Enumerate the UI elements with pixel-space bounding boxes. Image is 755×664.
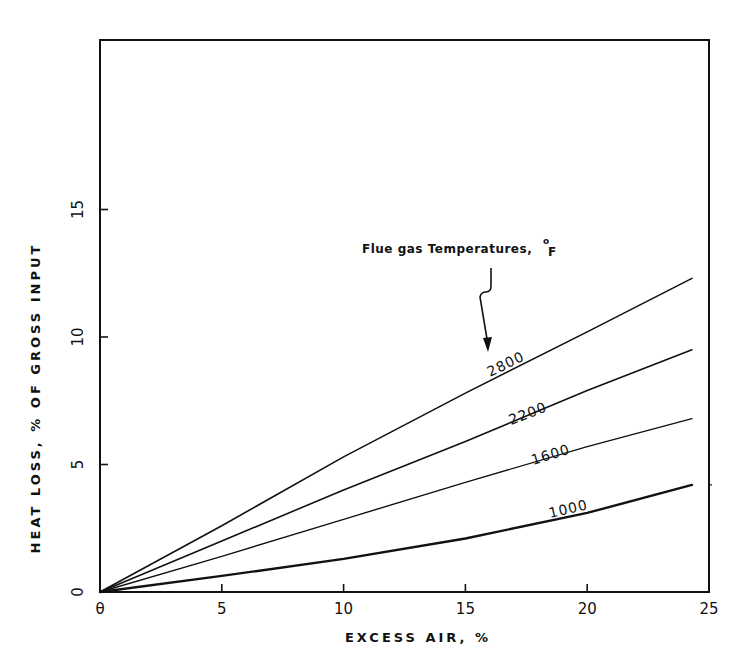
x-axis-title: EXCESS AIR, % xyxy=(345,630,491,645)
x-tick-label: 25 xyxy=(699,600,718,618)
y-tick-label: 0 xyxy=(69,587,87,597)
chart: θ510152025 051015 2800220016001000 EXCES… xyxy=(0,0,755,664)
x-tick-label: 15 xyxy=(456,600,475,618)
x-tick-label: 20 xyxy=(578,600,597,618)
annotation-unit: F xyxy=(548,245,557,259)
annotation-text: Flue gas Temperatures, xyxy=(362,242,532,256)
y-tick-label: 15 xyxy=(69,200,87,219)
x-tick-label: θ xyxy=(95,600,104,618)
y-axis-title: HEAT LOSS, % OF GROSS INPUT xyxy=(28,243,43,554)
background xyxy=(0,0,755,664)
x-tick-label: 10 xyxy=(334,600,353,618)
y-tick-label: 10 xyxy=(69,327,87,346)
x-tick-label: 5 xyxy=(217,600,227,618)
y-tick-label: 5 xyxy=(69,460,87,470)
